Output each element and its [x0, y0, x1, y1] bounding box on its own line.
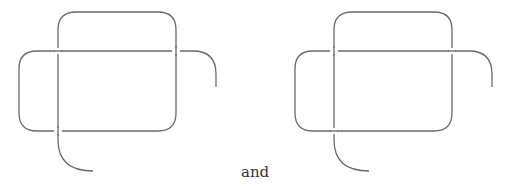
knot-diagrams	[0, 0, 507, 188]
connector-label: and	[241, 163, 269, 181]
left-knot-diagram	[19, 12, 216, 171]
right-strand	[295, 12, 492, 171]
left-strand	[19, 12, 216, 171]
right-knot-diagram	[295, 12, 492, 171]
